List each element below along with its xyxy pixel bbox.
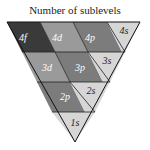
label-3p: 3p (74, 62, 85, 73)
label-4f: 4f (19, 32, 28, 43)
label-1s: 1s (71, 117, 80, 128)
label-2s: 2s (87, 85, 96, 96)
label-3s: 3s (102, 55, 112, 66)
label-3d: 3d (41, 62, 53, 73)
label-4d: 4d (52, 32, 63, 43)
label-2p: 2p (60, 91, 70, 102)
label-4p: 4p (85, 32, 95, 43)
label-4s: 4s (120, 25, 129, 36)
sublevel-triangle: 4f 4d 4p 4s 3d 3p 3s 2p 2s 1s (0, 0, 150, 150)
